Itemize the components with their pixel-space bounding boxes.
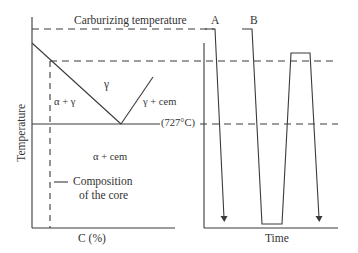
- x-axis-label-time: Time: [265, 233, 289, 245]
- arrow-a-icon: [221, 216, 228, 222]
- path-b-label: B: [250, 15, 258, 27]
- path-a-label: A: [211, 15, 219, 27]
- arrow-b-icon: [316, 216, 323, 222]
- alpha-gamma-region-label: α + γ: [54, 97, 75, 108]
- gamma-region-label: γ: [104, 79, 109, 91]
- y-axis-label-temperature: Temperature: [16, 98, 28, 168]
- alpha-cem-region-label: α + cem: [93, 152, 127, 163]
- x-axis-label-carbon: C (%): [78, 233, 106, 245]
- gamma-cem-region-label: γ + cem: [143, 97, 176, 108]
- core-composition-label-line2: of the core: [79, 190, 128, 202]
- path-b: [242, 29, 319, 224]
- eutectoid-temperature-label: (727°C): [160, 118, 196, 129]
- carburizing-temperature-label: Carburizing temperature: [74, 15, 187, 27]
- core-composition-label-line1: Composition: [73, 176, 132, 188]
